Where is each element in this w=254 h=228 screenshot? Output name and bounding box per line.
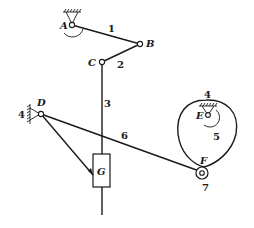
joint-b: [137, 41, 142, 46]
cam-5: [178, 100, 237, 167]
label-g: G: [97, 166, 106, 177]
joint-c: [99, 59, 104, 64]
joint-e: [206, 113, 211, 118]
label-d: D: [36, 97, 46, 108]
label-a: A: [59, 20, 68, 31]
label-link-2: 2: [117, 59, 124, 70]
mechanism-diagram: A B C D E F G 1 2 3 4 4 5 6 7: [0, 0, 254, 228]
label-link-6: 6: [121, 130, 128, 141]
label-c: C: [88, 57, 96, 68]
label-e: E: [195, 110, 204, 121]
label-f: F: [199, 155, 208, 166]
link-1: [72, 25, 140, 44]
joint-d: [38, 111, 43, 116]
label-link-3: 3: [104, 98, 111, 109]
label-link-1: 1: [108, 23, 115, 34]
joint-f: [200, 171, 205, 176]
label-b: B: [145, 38, 154, 49]
joint-a: [69, 22, 74, 27]
label-link-5: 5: [213, 131, 220, 142]
label-link-4-d: 4: [18, 109, 25, 120]
label-link-4-cam: 4: [204, 89, 211, 100]
label-link-7: 7: [202, 182, 209, 193]
